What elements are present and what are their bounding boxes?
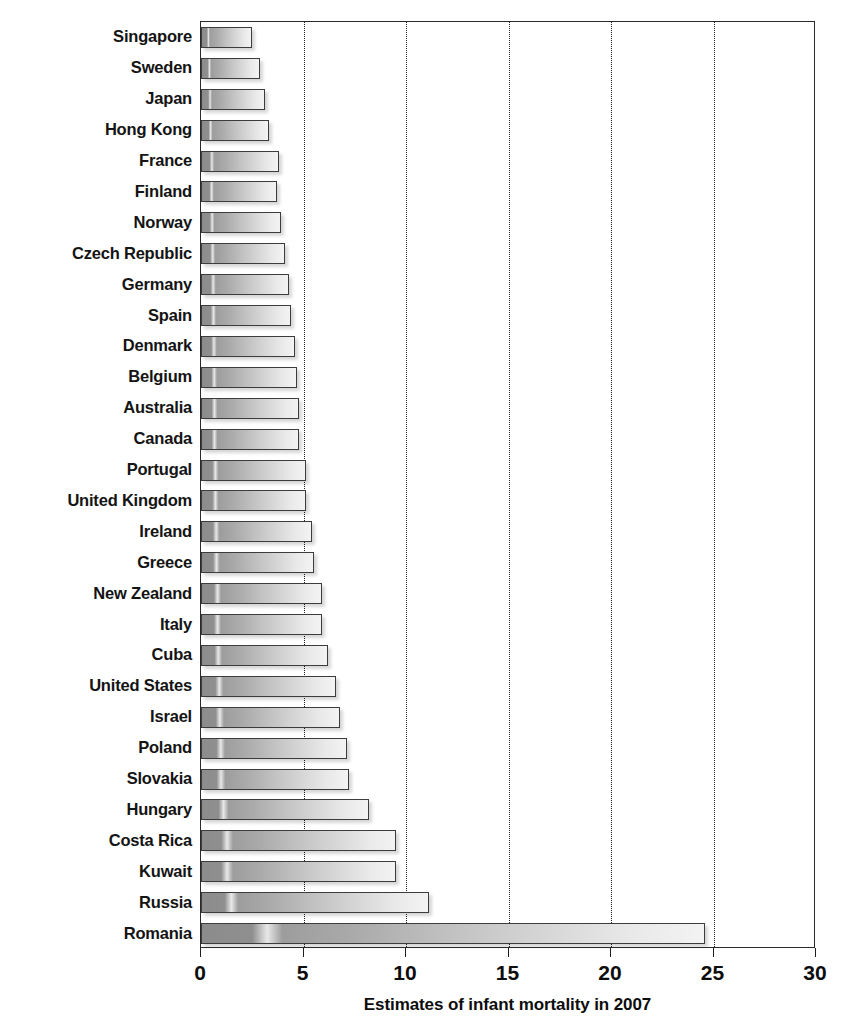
bar <box>201 429 299 450</box>
category-label: Portugal <box>0 461 192 478</box>
bar <box>201 89 265 110</box>
category-label: New Zealand <box>0 585 192 602</box>
category-label: United States <box>0 677 192 694</box>
x-tick-5 <box>303 948 304 957</box>
x-tick-0 <box>200 948 201 957</box>
bar <box>201 58 260 79</box>
x-tick-label: 25 <box>701 962 724 983</box>
x-tick-label: 30 <box>803 962 826 983</box>
bar <box>201 583 322 604</box>
category-label: Costa Rica <box>0 832 192 849</box>
bar <box>201 892 429 913</box>
category-label: Italy <box>0 616 192 633</box>
category-label: Poland <box>0 739 192 756</box>
bar <box>201 490 306 511</box>
bar <box>201 398 299 419</box>
category-label: France <box>0 152 192 169</box>
value-axis: 051015202530 <box>200 948 815 1033</box>
category-label: Hong Kong <box>0 121 192 138</box>
category-label: Russia <box>0 894 192 911</box>
bar <box>201 212 281 233</box>
bar <box>201 305 291 326</box>
category-label: Germany <box>0 276 192 293</box>
category-label: Czech Republic <box>0 245 192 262</box>
category-label: Singapore <box>0 28 192 45</box>
category-label: Sweden <box>0 59 192 76</box>
bar <box>201 676 336 697</box>
bar <box>201 521 312 542</box>
category-label: Greece <box>0 554 192 571</box>
x-tick-30 <box>815 948 816 957</box>
bar <box>201 274 289 295</box>
x-tick-20 <box>610 948 611 957</box>
gridline-25 <box>714 22 715 947</box>
bar <box>201 769 349 790</box>
category-label: Canada <box>0 430 192 447</box>
category-label: Israel <box>0 708 192 725</box>
x-tick-25 <box>713 948 714 957</box>
gridline-20 <box>611 22 612 947</box>
category-label: Ireland <box>0 523 192 540</box>
category-label: Japan <box>0 90 192 107</box>
x-tick-label: 10 <box>393 962 416 983</box>
x-axis-title: Estimates of infant mortality in 2007 <box>200 995 815 1015</box>
category-label: Hungary <box>0 801 192 818</box>
bar <box>201 181 277 202</box>
category-label: Cuba <box>0 646 192 663</box>
category-axis-labels: SingaporeSwedenJapanHong KongFranceFinla… <box>0 21 192 948</box>
x-tick-10 <box>405 948 406 957</box>
bar <box>201 552 314 573</box>
x-tick-15 <box>508 948 509 957</box>
infant-mortality-bar-chart: SingaporeSwedenJapanHong KongFranceFinla… <box>0 0 844 1033</box>
bar <box>201 27 252 48</box>
gridline-15 <box>509 22 510 947</box>
bar <box>201 861 396 882</box>
plot-area <box>200 21 815 948</box>
x-tick-label: 20 <box>598 962 621 983</box>
category-label: Slovakia <box>0 770 192 787</box>
category-label: Romania <box>0 925 192 942</box>
category-label: Belgium <box>0 368 192 385</box>
x-tick-label: 15 <box>496 962 519 983</box>
category-label: United Kingdom <box>0 492 192 509</box>
bar <box>201 243 285 264</box>
category-label: Norway <box>0 214 192 231</box>
x-tick-label: 0 <box>194 962 206 983</box>
bar <box>201 707 340 728</box>
bar <box>201 614 322 635</box>
category-label: Australia <box>0 399 192 416</box>
category-label: Finland <box>0 183 192 200</box>
gridline-10 <box>406 22 407 947</box>
category-label: Kuwait <box>0 863 192 880</box>
bar <box>201 367 297 388</box>
bar <box>201 923 705 944</box>
bar <box>201 645 328 666</box>
bar <box>201 460 306 481</box>
bar <box>201 120 269 141</box>
bar <box>201 336 295 357</box>
bar <box>201 799 369 820</box>
bar <box>201 830 396 851</box>
category-label: Denmark <box>0 337 192 354</box>
category-label: Spain <box>0 307 192 324</box>
x-tick-label: 5 <box>297 962 309 983</box>
bar <box>201 151 279 172</box>
bar <box>201 738 347 759</box>
